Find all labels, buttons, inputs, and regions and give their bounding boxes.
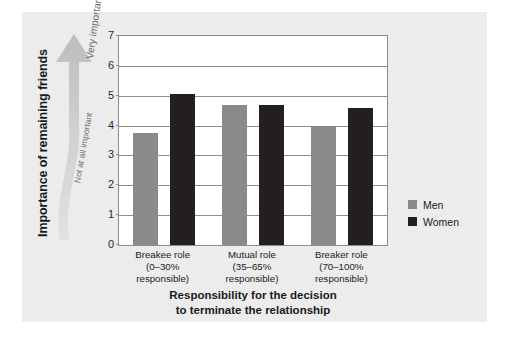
- y-axis-tick-label: 4: [108, 119, 114, 131]
- chart-figure: Importance of remaining friends Very imp…: [0, 0, 510, 342]
- bar-men-group-3: [311, 126, 336, 245]
- plot-area: [118, 35, 388, 246]
- x-axis-category-label-line: (70–100%: [297, 261, 386, 273]
- x-axis-category-label-line: Breaker role: [297, 249, 386, 261]
- legend-label: Women: [423, 216, 459, 228]
- bar-women-group-3: [348, 108, 373, 245]
- x-axis-category-label-line: (0–30%: [118, 261, 207, 273]
- x-axis-title-line: to terminate the relationship: [118, 303, 388, 318]
- bar-women-group-1: [170, 94, 195, 245]
- x-axis-category-label-line: responsible): [118, 273, 207, 285]
- legend-item-women: Women: [408, 213, 459, 230]
- importance-arrow: [52, 28, 98, 240]
- legend-label: Men: [423, 199, 443, 211]
- x-axis-title-line: Responsibility for the decision: [118, 288, 388, 303]
- y-axis-tick-label: 6: [108, 59, 114, 71]
- x-axis-category-label-line: Mutual role: [207, 249, 296, 261]
- gridline: [119, 96, 387, 97]
- legend-swatch-icon: [408, 200, 417, 209]
- arrow-icon: [52, 28, 98, 240]
- x-axis-category-label-line: responsible): [297, 273, 386, 285]
- gridline: [119, 66, 387, 67]
- gridline: [119, 155, 387, 156]
- y-axis-tick-label: 2: [108, 178, 114, 190]
- gridline: [119, 215, 387, 216]
- y-axis-tick-label: 0: [108, 238, 114, 250]
- legend-item-men: Men: [408, 196, 459, 213]
- x-axis-category-label-line: Breakee role: [118, 249, 207, 261]
- x-axis-category-label-line: responsible): [207, 273, 296, 285]
- x-axis-category-label-line: (35–65%: [207, 261, 296, 273]
- y-axis-ticks: 01234567: [100, 35, 116, 246]
- y-axis-tick-label: 5: [108, 89, 114, 101]
- x-axis-category-label: Mutual role(35–65%responsible): [207, 249, 296, 286]
- y-axis-tick-label: 1: [108, 208, 114, 220]
- gridline: [119, 185, 387, 186]
- legend-swatch-icon: [408, 217, 417, 226]
- y-axis-title: Importance of remaining friends: [36, 49, 50, 237]
- bar-men-group-1: [133, 133, 158, 245]
- x-axis-title: Responsibility for the decisionto termin…: [118, 288, 388, 317]
- y-axis-tick-label: 7: [108, 29, 114, 41]
- bar-women-group-2: [259, 105, 284, 245]
- gridline: [119, 126, 387, 127]
- bar-men-group-2: [222, 105, 247, 245]
- y-axis-tick-label: 3: [108, 148, 114, 160]
- x-axis-category-label: Breakee role(0–30%responsible): [118, 249, 207, 286]
- legend: MenWomen: [408, 196, 459, 230]
- x-axis-category-label: Breaker role(70–100%responsible): [297, 249, 386, 286]
